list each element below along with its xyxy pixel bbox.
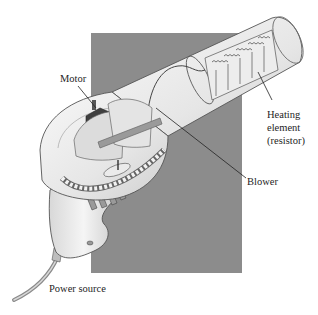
label-blower: Blower bbox=[247, 175, 278, 188]
label-heating-line1: Heating bbox=[267, 108, 305, 121]
label-heating-line2: element bbox=[267, 121, 305, 134]
hair-dryer-illustration bbox=[0, 0, 318, 315]
blower-leader-line bbox=[156, 108, 246, 178]
label-heating-line3: (resistor) bbox=[267, 134, 305, 147]
label-heating-element: Heating element (resistor) bbox=[267, 108, 305, 147]
label-power-source: Power source bbox=[49, 282, 106, 295]
label-motor: Motor bbox=[60, 72, 86, 85]
hair-dryer-diagram: Motor Heating element (resistor) Blower … bbox=[0, 0, 318, 315]
